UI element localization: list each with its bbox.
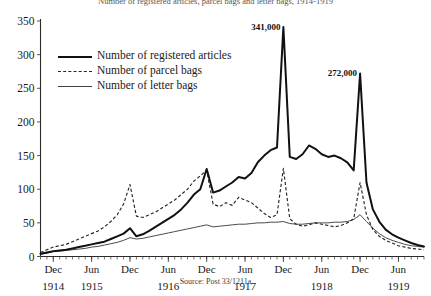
x-tick-label: Jun (391, 263, 407, 275)
y-tick-label: 0 (29, 251, 35, 263)
legend-item-letter-bags: Number of letter bags (58, 78, 248, 93)
x-axis: DecJunDecJunDecJunDecJunDecJun1914191519… (41, 257, 425, 292)
x-tick-label: Jun (237, 263, 253, 275)
legend-label-registered-articles: Number of registered articles (97, 49, 231, 62)
y-axis: 050100150200250300350 (17, 15, 40, 263)
peak-annotation-label: 341,000 (251, 22, 281, 32)
source-note: Source: Post 33/1211a (0, 277, 431, 286)
legend-item-parcel-bags: Number of parcel bags (58, 63, 248, 78)
x-tick-label: Jun (161, 263, 177, 275)
chart-legend: Number of registered articles Number of … (58, 48, 248, 93)
series-line-letter-bags (41, 215, 425, 255)
x-tick-label: Dec (275, 263, 293, 275)
legend-swatch-solid-thick-icon (58, 51, 92, 61)
x-tick-label: Dec (351, 263, 369, 275)
y-tick-label: 200 (17, 116, 35, 128)
y-tick-label: 150 (17, 150, 35, 162)
legend-label-parcel-bags: Number of parcel bags (97, 64, 202, 77)
x-tick-label: Dec (44, 263, 62, 275)
y-tick-label: 350 (17, 15, 35, 27)
x-tick-label: Jun (84, 263, 100, 275)
y-tick-label: 250 (17, 82, 35, 94)
x-tick-label: Jun (314, 263, 330, 275)
y-tick-label: 50 (23, 217, 35, 229)
legend-item-registered-articles: Number of registered articles (58, 48, 248, 63)
chart-figure: Number of registered articles, parcel ba… (0, 0, 431, 296)
legend-swatch-dashed-icon (58, 66, 92, 76)
line-chart-plot: 050100150200250300350 DecJunDecJunDecJun… (0, 0, 431, 296)
peak-annotations: 341,000272,000 (251, 22, 357, 78)
x-tick-label: Dec (121, 263, 139, 275)
y-tick-label: 100 (17, 183, 35, 195)
y-tick-label: 300 (17, 49, 35, 61)
legend-swatch-solid-thin-icon (58, 81, 92, 91)
x-tick-label: Dec (198, 263, 216, 275)
peak-annotation-label: 272,000 (328, 68, 358, 78)
legend-label-letter-bags: Number of letter bags (97, 79, 198, 92)
